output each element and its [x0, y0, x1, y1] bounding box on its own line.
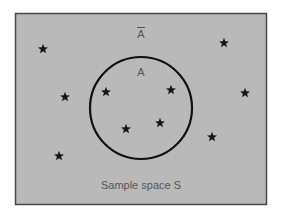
event-a-label: A	[137, 66, 145, 78]
complement-label: A	[137, 28, 145, 41]
sample-space-rectangle	[16, 14, 267, 205]
complement-label-text: A	[137, 28, 145, 40]
venn-diagram: A A Sample space S	[0, 0, 282, 218]
sample-space-label: Sample space S	[101, 179, 181, 191]
